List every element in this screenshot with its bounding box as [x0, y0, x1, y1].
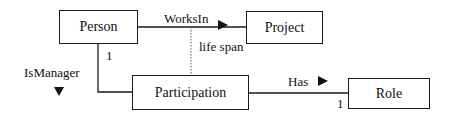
entity-person[interactable]: Person: [59, 10, 138, 44]
life-span-label: life span: [199, 40, 243, 53]
works-in-arrow-icon: [218, 20, 228, 30]
entity-participation-label: Participation: [155, 85, 227, 101]
entity-role[interactable]: Role: [348, 78, 430, 109]
entity-project-label: Project: [265, 20, 305, 36]
entity-project[interactable]: Project: [246, 11, 323, 44]
has-multiplicity: 1: [337, 97, 344, 110]
er-diagram: Person Project Participation Role WorksI…: [0, 0, 451, 120]
works-in-label: WorksIn: [164, 12, 208, 25]
is-manager-multiplicity: 1: [106, 49, 113, 62]
is-manager-arrow-icon: [54, 87, 64, 96]
is-manager-line: [98, 44, 132, 92]
is-manager-label: IsManager: [24, 66, 80, 79]
has-arrow-icon: [318, 76, 328, 86]
has-label: Has: [288, 75, 308, 88]
entity-person-label: Person: [79, 19, 117, 35]
entity-role-label: Role: [376, 86, 402, 102]
entity-participation[interactable]: Participation: [132, 75, 249, 110]
